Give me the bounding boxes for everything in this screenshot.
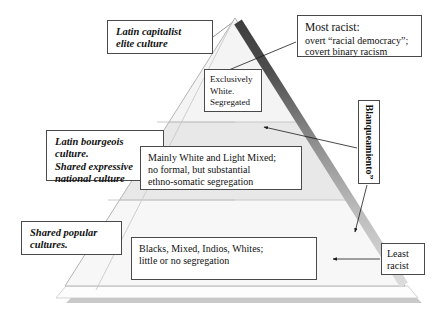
annotation-line: overt “racial democracy”; [305, 35, 415, 47]
label-line: Latin capitalist [116, 26, 205, 38]
label-line: elite culture [116, 38, 205, 50]
label-shared-popular-cultures: Shared popular cultures. [21, 221, 122, 255]
description-line: Exclusively [210, 74, 256, 86]
label-line: Shared popular [30, 227, 114, 239]
annotation-line: racist [387, 260, 419, 272]
annotation-blanqueamiento: Blanqueamiento” [358, 100, 380, 184]
description-line: Segregated [210, 97, 256, 109]
annotation-line: Least [387, 248, 419, 260]
label-latin-capitalist-elite-culture: Latin capitalist elite culture [107, 20, 213, 54]
annotation-least-racist: Least racist [381, 243, 425, 275]
description-line: no formal, but substantial [148, 164, 295, 176]
description-line: Blacks, Mixed, Indios, Whites; [139, 243, 310, 255]
annotation-blanqueamiento-text: Blanqueamiento” [363, 104, 375, 179]
annotation-line: covert binary racism [305, 46, 415, 58]
description-line: ethno-somatic segregation [148, 176, 295, 188]
description-mainly-white-light-mixed: Mainly White and Light Mixed; no formal,… [140, 146, 302, 190]
pyramid-diagram-canvas: Latin capitalist elite culture Latin bou… [0, 0, 439, 324]
description-line: White. [210, 86, 256, 98]
description-line: Mainly White and Light Mixed; [148, 152, 295, 164]
description-blacks-mixed-indios-whites: Blacks, Mixed, Indios, Whites; little or… [131, 237, 317, 280]
description-exclusively-white-segregated: Exclusively White. Segregated [204, 69, 262, 112]
annotation-heading: Most racist: [305, 21, 415, 35]
label-line: cultures. [30, 239, 114, 251]
annotation-most-racist: Most racist: overt “racial democracy”; c… [297, 15, 422, 57]
pyramid-base-plinth [56, 286, 422, 303]
description-line: little or no segregation [139, 255, 310, 267]
